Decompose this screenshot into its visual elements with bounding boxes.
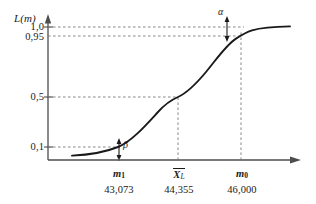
x-tick-symbol-m1-subscript: 1 xyxy=(121,171,125,180)
x-tick-value-xl: 44,355 xyxy=(150,185,208,196)
beta-arrowhead-up xyxy=(117,138,122,144)
beta-label: β xyxy=(123,140,128,150)
x-tick-symbol-xl: XL xyxy=(155,168,203,181)
beta-annotation-group xyxy=(117,138,122,161)
x-axis-arrowhead xyxy=(290,157,301,164)
horizontal-guides xyxy=(48,27,244,147)
x-tick-symbol-xl-subscript: L xyxy=(180,172,184,181)
alpha-label: α xyxy=(218,7,223,17)
figure-container: L(m) 1,0 0,95 0,5 0,1 α β m1 43,073 XL 4… xyxy=(0,0,316,204)
x-tick-symbol-xl-overbar-wrap: XL xyxy=(173,168,184,181)
alpha-arrowhead-up xyxy=(225,16,230,22)
x-tick-value-m1: 43,073 xyxy=(90,185,148,196)
x-tick-value-m0: 46,000 xyxy=(213,185,271,196)
y-tick-label-0_95: 0,95 xyxy=(6,32,44,43)
alpha-arrowhead-down xyxy=(225,36,230,42)
y-axis-arrowhead xyxy=(45,14,51,24)
ogive-curve xyxy=(72,26,290,155)
alpha-annotation-group xyxy=(225,16,230,42)
x-tick-symbol-m1-base: m xyxy=(113,168,121,179)
x-tick-symbol-m1: m1 xyxy=(94,169,144,180)
vertical-guides xyxy=(178,30,241,160)
x-tick-symbol-m0-subscript: 0 xyxy=(244,171,248,180)
x-tick-symbol-m0: m0 xyxy=(217,169,267,180)
y-tick-label-0_5: 0,5 xyxy=(6,92,44,103)
y-tick-label-0_1: 0,1 xyxy=(6,142,44,153)
ogive-curve-group xyxy=(72,26,290,155)
x-tick-symbol-m0-base: m xyxy=(236,168,244,179)
